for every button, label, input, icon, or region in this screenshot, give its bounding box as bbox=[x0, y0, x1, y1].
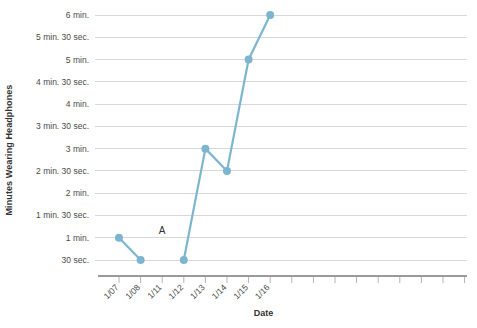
data-series-line bbox=[119, 15, 270, 260]
line-chart-plot: 30 sec.1 min.1 min. 30 sec.2 min.2 min. … bbox=[0, 0, 477, 328]
series-line-segment bbox=[184, 15, 270, 260]
data-point-marker[interactable] bbox=[201, 145, 209, 153]
y-axis-tick-label: 5 min. 30 sec. bbox=[36, 32, 89, 42]
y-axis-tick-label: 2 min. bbox=[66, 188, 89, 198]
x-axis-ticks bbox=[119, 277, 465, 283]
data-point-marker[interactable] bbox=[137, 256, 145, 264]
x-axis-title-text: Date bbox=[254, 308, 274, 318]
y-axis-tick-label: 4 min. 30 sec. bbox=[36, 77, 89, 87]
x-axis-tick-labels: 1/071/081/111/121/131/141/151/16 bbox=[102, 282, 272, 301]
y-axis-tick-label: 1 min. 30 sec. bbox=[36, 210, 89, 220]
data-point-marker[interactable] bbox=[115, 234, 123, 242]
x-axis-tick-label: 1/07 bbox=[102, 282, 121, 301]
series-line-segment bbox=[119, 238, 141, 260]
x-axis-tick-label: 1/11 bbox=[145, 282, 164, 301]
y-axis-tick-labels: 30 sec.1 min.1 min. 30 sec.2 min.2 min. … bbox=[36, 10, 89, 265]
x-axis-title: Date bbox=[0, 308, 477, 318]
y-axis-tick-label: 3 min. 30 sec. bbox=[36, 121, 89, 131]
data-point-marker[interactable] bbox=[266, 11, 274, 19]
x-axis-tick-label: 1/15 bbox=[231, 282, 250, 301]
y-axis-tick-label: 4 min. bbox=[66, 99, 89, 109]
chart-annotations: A bbox=[159, 225, 166, 236]
x-axis-tick-label: 1/12 bbox=[166, 282, 185, 301]
y-axis-tick-label: 6 min. bbox=[66, 10, 89, 20]
data-point-marker[interactable] bbox=[180, 256, 188, 264]
data-point-markers bbox=[115, 11, 274, 264]
y-axis-tick-label: 2 min. 30 sec. bbox=[36, 166, 89, 176]
data-point-marker[interactable] bbox=[245, 56, 253, 64]
y-axis-tick-label: 1 min. bbox=[66, 233, 89, 243]
chart-container: Minutes Wearing Headphones 30 sec.1 min.… bbox=[0, 0, 477, 328]
x-axis-tick-label: 1/16 bbox=[253, 282, 272, 301]
data-point-marker[interactable] bbox=[223, 167, 231, 175]
x-axis-tick-label: 1/08 bbox=[123, 282, 142, 301]
annotation-label: A bbox=[159, 225, 166, 236]
x-axis-tick-label: 1/13 bbox=[188, 282, 207, 301]
gridlines bbox=[95, 15, 467, 260]
y-axis-tick-label: 30 sec. bbox=[62, 255, 89, 265]
y-axis-tick-label: 5 min. bbox=[66, 55, 89, 65]
x-axis-tick-label: 1/14 bbox=[210, 282, 229, 301]
y-axis-tick-label: 3 min. bbox=[66, 144, 89, 154]
